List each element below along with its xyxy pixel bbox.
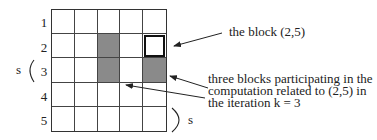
right-bracket-icon [172,108,179,132]
arrows-and-brackets [0,0,377,140]
arrow-to-target-block [174,33,222,46]
arrow-to-cell-3-5 [170,76,208,88]
left-bracket-icon [30,60,34,82]
arrow-to-cell-3-3 [126,85,205,98]
